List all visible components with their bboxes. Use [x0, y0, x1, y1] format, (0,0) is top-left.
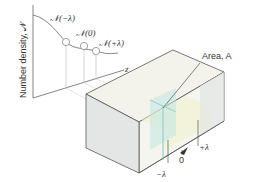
box — [86, 50, 224, 173]
arrow-head — [180, 147, 188, 155]
label-n-minus-lambda: 𝒩(−λ) — [50, 13, 75, 23]
point-zero — [80, 42, 87, 49]
label-plus-lambda: +λ — [199, 142, 209, 152]
z-axis-label: z — [124, 64, 129, 74]
diffusion-diagram: Number density, 𝒩 𝒩(−λ) 𝒩(0) 𝒩(+λ) z Are… — [0, 0, 259, 182]
area-label: Area, A — [202, 51, 232, 61]
label-n-zero: 𝒩(0) — [76, 28, 96, 38]
point-plus-lambda — [92, 47, 99, 54]
label-zero: 0 — [179, 155, 184, 165]
label-n-plus-lambda: 𝒩(+λ) — [99, 38, 124, 48]
y-axis-label: Number density, 𝒩 — [18, 21, 28, 98]
point-minus-lambda — [62, 38, 69, 45]
label-minus-lambda: −λ — [156, 169, 166, 179]
